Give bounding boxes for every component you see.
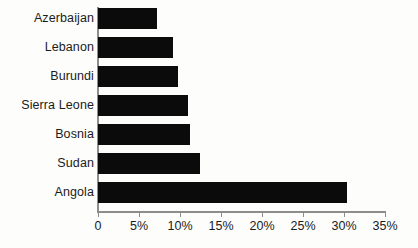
bar-row bbox=[98, 66, 398, 87]
category-label: Sudan bbox=[0, 156, 94, 170]
bar bbox=[98, 66, 178, 87]
bar bbox=[98, 8, 157, 29]
x-tick-mark bbox=[180, 211, 181, 217]
category-label: Burundi bbox=[0, 69, 94, 83]
bar bbox=[98, 153, 200, 174]
x-tick-mark bbox=[344, 211, 345, 217]
bar-row bbox=[98, 124, 398, 145]
category-label: Angola bbox=[0, 185, 94, 199]
x-tick-mark bbox=[303, 211, 304, 217]
bar-row bbox=[98, 8, 398, 29]
bars-layer bbox=[98, 8, 398, 212]
x-tick-label: 35% bbox=[355, 219, 415, 233]
category-label: Bosnia bbox=[0, 127, 94, 141]
x-tick-mark bbox=[221, 211, 222, 217]
bar-row bbox=[98, 95, 398, 116]
bar bbox=[98, 37, 173, 58]
bar-row bbox=[98, 153, 398, 174]
bar bbox=[98, 182, 347, 203]
category-label: Sierra Leone bbox=[0, 98, 94, 112]
category-label: Lebanon bbox=[0, 40, 94, 54]
bar bbox=[98, 124, 190, 145]
x-tick-mark bbox=[139, 211, 140, 217]
bar-row bbox=[98, 182, 398, 203]
x-tick-mark bbox=[385, 211, 386, 217]
bar bbox=[98, 95, 188, 116]
bar-chart: AzerbaijanLebanonBurundiSierra LeoneBosn… bbox=[0, 0, 418, 248]
plot-area bbox=[98, 8, 398, 212]
x-tick-mark bbox=[98, 211, 99, 217]
bar-row bbox=[98, 37, 398, 58]
category-label: Azerbaijan bbox=[0, 11, 94, 25]
x-tick-mark bbox=[262, 211, 263, 217]
